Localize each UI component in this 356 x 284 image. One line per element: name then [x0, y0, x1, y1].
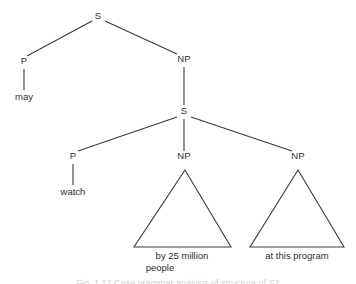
- node-right-np: NP: [291, 150, 305, 161]
- edge-lower-s-to-lower-p: [78, 117, 177, 151]
- triangle-left-np: [134, 170, 231, 247]
- edge-lower-s-to-right-np: [191, 117, 292, 151]
- node-root-s: S: [95, 10, 102, 21]
- triangle-right-np: [250, 170, 344, 247]
- node-left-p: P: [21, 55, 28, 66]
- edge-root-s-to-upper-np: [105, 21, 177, 54]
- phrase-right-line-1: at this program: [265, 250, 328, 261]
- node-lower-p: P: [70, 150, 77, 161]
- node-mid-np: NP: [177, 150, 191, 161]
- leaf-may: may: [15, 91, 33, 102]
- tree-canvas: S P NP S P NP NP may watch by 25 million…: [0, 0, 356, 284]
- leaf-watch: watch: [60, 186, 86, 197]
- syntax-tree-diagram: S P NP S P NP NP may watch by 25 million…: [0, 0, 356, 284]
- node-lower-s: S: [181, 105, 188, 116]
- figure-caption: Fig. 1.12 Case grammar analysis of struc…: [0, 278, 356, 284]
- edge-root-s-to-left-p: [27, 21, 92, 56]
- figure-caption-clip: Fig. 1.12 Case grammar analysis of struc…: [0, 278, 356, 284]
- phrase-left-line-2: people: [146, 262, 175, 273]
- phrase-left-line-1: by 25 million: [156, 250, 209, 261]
- node-upper-np: NP: [177, 53, 191, 64]
